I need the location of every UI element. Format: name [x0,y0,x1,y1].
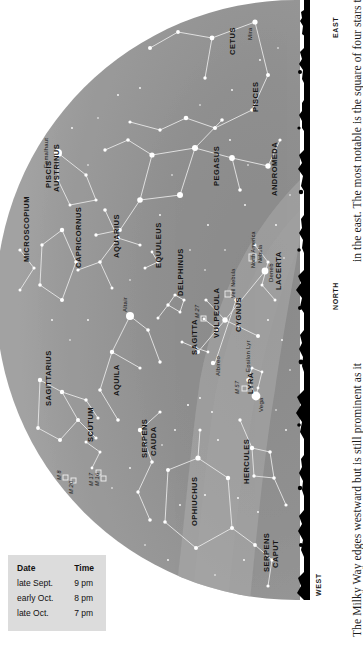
label-lacerta: LACERTA [274,251,283,290]
label-aquarius: AQUARIUS [112,214,121,258]
label-equuleus: EQUULEUS [154,222,163,268]
cell-date: late Sept. [17,578,56,593]
label-scutum: SCUTUM [86,407,95,442]
label-piscis-austrinus-2: AUSTRINUS [52,144,61,192]
label-dso-m57: M 57 [234,380,240,394]
sky-dome: CETUS PISCES ANDROMEDA PEGASUS LACERTA C… [0,0,300,600]
label-star-epsilon-lyr: Epsilon Lyr [245,340,251,372]
label-lyra: LYRA [246,372,255,394]
label-sagitta: SAGITTA [190,319,199,355]
compass-east: EAST [332,17,339,38]
label-star-altair: Altair [122,297,128,312]
label-dso-m20: M 20 [68,480,74,494]
label-serpens-caput-1: SERPENS [262,533,271,572]
label-dso-north-america-1: North America [250,231,256,268]
sky-chart-svg: CETUS PISCES ANDROMEDA PEGASUS LACERTA C… [0,0,300,600]
label-pegasus: PEGASUS [212,146,221,186]
label-andromeda: ANDROMEDA [270,142,279,196]
label-dso-m8: M 8 [56,469,62,480]
compass-west: WEST [315,573,322,596]
label-star-mira: Mira [247,27,253,40]
label-pisces: PISCES [251,81,260,112]
compass-north: NORTH [332,282,339,310]
table-body: late Sept. 9 pm early Oct. 8 pm late Oct… [17,578,97,623]
label-star-albireo: Albireo [215,355,221,376]
horizon-svg [296,0,316,600]
table-header-row: Date Time [17,563,97,578]
label-sagittarius: SAGITTARIUS [44,350,53,406]
label-vulpecula: VULPECULA [212,288,221,338]
date-time-grid: Date Time late Sept. 9 pm early Oct. 8 p… [17,563,97,623]
table-row: late Sept. 9 pm [17,578,97,593]
label-serpens-cauda-1: SERPENS [140,419,149,458]
label-cygnus: CYGNUS [234,297,243,332]
cell-date: early Oct. [17,593,56,608]
table-row: early Oct. 8 pm [17,593,97,608]
table-row: late Oct. 7 pm [17,608,97,623]
label-dso-veil-nebula: Veil Nebula [230,269,236,298]
label-star-deneb: Deneb [268,263,274,282]
label-dso-m27: M 27 [194,304,200,318]
label-hercules: HERCULES [242,439,251,484]
caption-line-1: The Milky Way edges westward but is stil… [351,363,363,637]
date-time-table: Date Time late Sept. 9 pm early Oct. 8 p… [8,555,106,631]
cell-time: 8 pm [56,593,97,608]
cell-time: 7 pm [56,608,97,623]
cell-date: late Oct. [17,608,56,623]
label-ophiuchus: OPHIUCHUS [190,476,199,526]
table-head: Date Time [17,563,97,578]
label-serpens-caput-2: CAPUT [271,540,280,568]
label-dso-m16: M 16 [94,472,100,486]
label-delphinus: DELPHINUS [176,248,185,296]
label-microscopium: MICROSCOPIUM [22,196,31,262]
label-capricornus: CAPRICORNUS [74,207,83,268]
caption-line-2: in the east. The most notable is the squ… [351,0,363,262]
label-dso-north-america-2: Nebula [257,245,263,263]
label-star-vega: Vega [258,397,264,412]
cell-time: 9 pm [56,578,97,593]
label-cetus: CETUS [228,27,237,55]
label-star-fomalhaut: Fomalhaut [43,138,49,168]
column-header-date: Date [17,563,56,578]
label-aquila: AQUILA [112,364,121,396]
label-serpens-cauda-2: CAUDA [149,426,158,456]
horizon-silhouette [296,0,316,600]
column-header-time: Time [56,563,97,578]
